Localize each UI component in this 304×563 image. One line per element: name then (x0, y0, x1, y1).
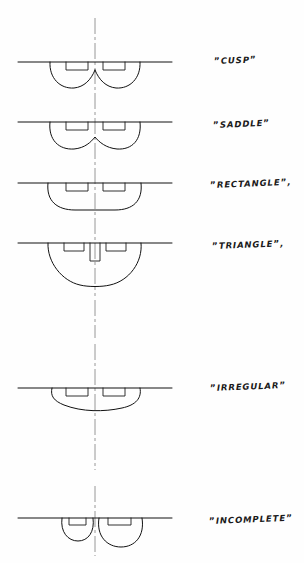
label-irregular-close-quote: ” (279, 380, 286, 390)
triangle-notch-right (106, 243, 126, 251)
drawing-sheet: ”CUSP” ”SADDLE” ”RECTANGLE”, ”TRIANGLE”,… (0, 0, 304, 563)
triangle-notch-left (64, 243, 84, 251)
label-saddle-close-quote: ” (263, 118, 270, 128)
label-incomplete-close-quote: ” (286, 513, 293, 523)
rectangle-notch-right (103, 183, 125, 191)
profile-diagram (0, 0, 304, 563)
rectangle-profile (48, 183, 141, 210)
label-triangle-text: TRIANGLE (219, 239, 274, 251)
irregular-notch-left (66, 388, 88, 396)
cusp-notch-right (103, 62, 125, 70)
irregular-profile (52, 388, 141, 411)
label-cusp: ”CUSP” (214, 54, 257, 66)
label-rectangle-trailing: , (287, 177, 292, 187)
incomplete-lobe-right (99, 518, 143, 547)
saddle-notch-right (103, 122, 125, 130)
incomplete-notch-right (108, 518, 131, 525)
rectangle-notch-left (66, 183, 88, 191)
cusp-notch-left (66, 62, 88, 70)
incomplete-lobe-left (62, 518, 94, 541)
cusp-profile-right (95, 62, 140, 88)
label-cusp-text: CUSP (221, 55, 250, 66)
label-cusp-close-quote: ” (250, 54, 257, 64)
label-triangle-trailing: , (280, 238, 285, 248)
label-saddle-text: SADDLE (220, 118, 264, 130)
irregular-notch-right (103, 388, 125, 396)
saddle-notch-left (66, 122, 88, 130)
incomplete-notch-left (69, 518, 86, 525)
